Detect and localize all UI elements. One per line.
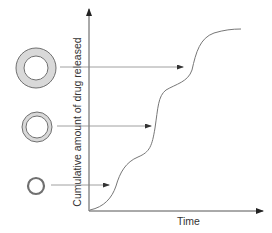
y-axis-label: Cumulative amount of drug released xyxy=(71,37,83,206)
medium-coating-particle xyxy=(22,112,52,142)
thick-coating-particle xyxy=(16,48,56,88)
release-curve xyxy=(90,29,241,210)
x-axis-label: Time xyxy=(177,215,200,227)
drug-release-diagram: Cumulative amount of drug released Time xyxy=(0,0,272,233)
thin-coating-particle xyxy=(28,178,44,194)
